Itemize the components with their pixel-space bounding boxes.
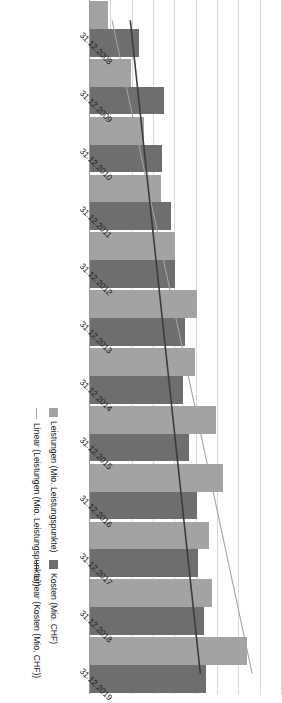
legend-label: Kosten (Mio. CHF): [49, 573, 59, 644]
category-group: [89, 578, 281, 636]
legend-label: Leistungen (Mio. Leistungspunkte): [49, 421, 59, 552]
bar-plot: [89, 0, 281, 694]
category-group: [89, 58, 281, 116]
category-group: [89, 405, 281, 463]
legend-item: Kosten (Mio. CHF): [49, 560, 59, 644]
category-group: [89, 116, 281, 174]
bar-leistungen: [89, 637, 247, 665]
category-group: [89, 231, 281, 289]
bar-leistungen: [89, 1, 108, 29]
chart-plot-area: [89, 0, 281, 694]
legend-swatch-box-icon: [50, 560, 59, 569]
category-group: [89, 521, 281, 579]
bar-leistungen: [89, 117, 144, 145]
bar-leistungen: [89, 175, 161, 203]
category-group: [89, 174, 281, 232]
category-group: [89, 463, 281, 521]
chart-legend: Leistungen (Mio. Leistungspunkte)Linear …: [0, 0, 89, 694]
category-group: [89, 636, 281, 694]
category-group: [89, 347, 281, 405]
category-group: [89, 289, 281, 347]
legend-swatch-line-icon: [37, 408, 38, 419]
legend-item: Linear (Kosten (Mio. CHF)): [32, 560, 42, 678]
bar-leistungen: [89, 232, 175, 260]
legend-swatch-line-icon: [37, 560, 38, 571]
category-group: [89, 0, 281, 58]
legend-item: Leistungen (Mio. Leistungspunkte): [49, 408, 59, 552]
legend-swatch-box-icon: [50, 408, 59, 417]
legend-label: Linear (Kosten (Mio. CHF)): [32, 575, 42, 678]
gridline: [281, 0, 282, 694]
